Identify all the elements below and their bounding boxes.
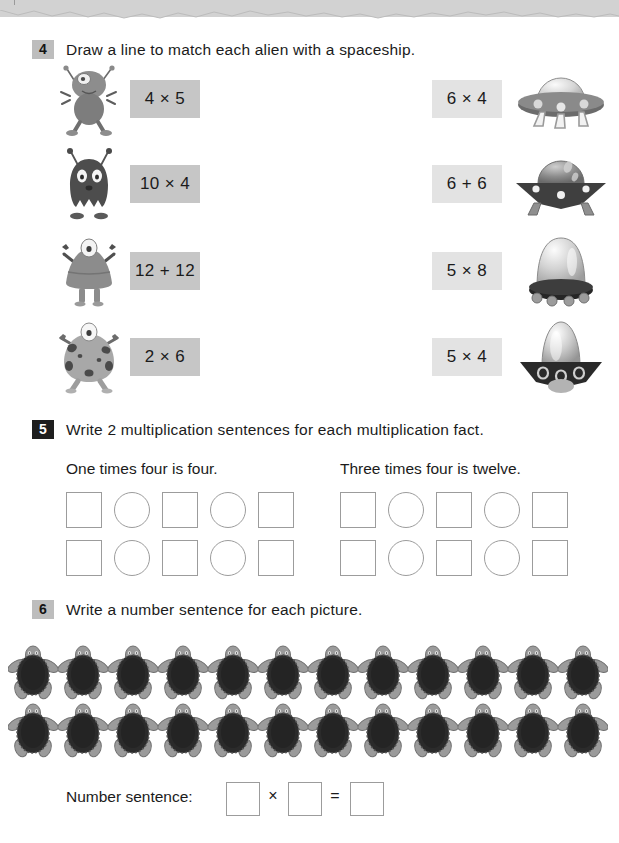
question-5-answer-area: One times four is four. Three times four… bbox=[0, 460, 619, 580]
answer-circle[interactable] bbox=[484, 492, 520, 528]
torn-edge-icon bbox=[0, 10, 619, 24]
answer-box[interactable] bbox=[340, 540, 376, 576]
fact-label-left[interactable]: 2 × 6 bbox=[130, 338, 200, 376]
turtle-icon bbox=[108, 640, 158, 702]
q5-caption-right: Three times four is twelve. bbox=[340, 460, 521, 478]
answer-shape-row bbox=[340, 540, 590, 582]
question-4-badge: 4 bbox=[32, 40, 54, 59]
question-6-instruction: Write a number sentence for each picture… bbox=[66, 601, 363, 619]
answer-circle[interactable] bbox=[210, 540, 246, 576]
match-row: 12 + 12 5 × 8 bbox=[0, 232, 619, 317]
turtle-icon bbox=[258, 698, 308, 760]
turtle-icon bbox=[308, 698, 358, 760]
ufo-tall-dome-icon[interactable] bbox=[512, 232, 610, 312]
answer-box[interactable] bbox=[66, 540, 102, 576]
question-6-badge: 6 bbox=[32, 600, 54, 619]
match-row: 10 × 4 6 + 6 bbox=[0, 145, 619, 230]
number-sentence-box-2[interactable] bbox=[288, 782, 322, 816]
turtle-icon bbox=[358, 640, 408, 702]
multiply-operator: × bbox=[266, 787, 280, 805]
number-sentence-label: Number sentence: bbox=[66, 788, 193, 806]
fact-label-right[interactable]: 5 × 8 bbox=[432, 252, 502, 290]
answer-circle[interactable] bbox=[388, 540, 424, 576]
page-header-band bbox=[0, 0, 619, 24]
fact-label-left[interactable]: 4 × 5 bbox=[130, 80, 200, 118]
q5-caption-left: One times four is four. bbox=[66, 460, 218, 478]
turtle-icon bbox=[408, 698, 458, 760]
turtle-icon bbox=[58, 698, 108, 760]
answer-circle[interactable] bbox=[388, 492, 424, 528]
turtle-icon bbox=[558, 698, 608, 760]
turtle-icon bbox=[158, 698, 208, 760]
turtle-icon bbox=[558, 640, 608, 702]
turtle-icon bbox=[8, 640, 58, 702]
turtle-icon bbox=[358, 698, 408, 760]
answer-box[interactable] bbox=[162, 492, 198, 528]
turtle-icon bbox=[458, 640, 508, 702]
turtle-icon bbox=[258, 640, 308, 702]
number-sentence-box-1[interactable] bbox=[226, 782, 260, 816]
turtle-icon bbox=[58, 640, 108, 702]
fact-label-right[interactable]: 5 × 4 bbox=[432, 338, 502, 376]
question-6-turtle-picture bbox=[0, 640, 619, 765]
alien-ghost-antenna-icon[interactable] bbox=[58, 145, 120, 223]
answer-box[interactable] bbox=[532, 540, 568, 576]
answer-box[interactable] bbox=[340, 492, 376, 528]
ufo-flat-angular-icon[interactable] bbox=[512, 145, 610, 225]
turtle-icon bbox=[408, 640, 458, 702]
alien-spotted-blob-icon[interactable] bbox=[58, 318, 120, 396]
question-5-instruction: Write 2 multiplication sentences for eac… bbox=[66, 421, 484, 439]
number-sentence-box-3[interactable] bbox=[350, 782, 384, 816]
question-4-match-area: 4 × 5 6 × 4 bbox=[0, 60, 619, 400]
turtle-icon bbox=[308, 640, 358, 702]
answer-box[interactable] bbox=[436, 540, 472, 576]
match-row: 2 × 6 5 × 4 bbox=[0, 318, 619, 403]
answer-box[interactable] bbox=[258, 540, 294, 576]
answer-shape-row bbox=[66, 492, 316, 534]
fact-label-right[interactable]: 6 × 4 bbox=[432, 80, 502, 118]
match-row: 4 × 5 6 × 4 bbox=[0, 60, 619, 145]
alien-round-antenna-icon[interactable] bbox=[58, 60, 120, 138]
answer-box[interactable] bbox=[66, 492, 102, 528]
question-4-instruction: Draw a line to match each alien with a s… bbox=[66, 41, 415, 59]
answer-shape-row bbox=[66, 540, 316, 582]
turtle-row bbox=[0, 698, 619, 760]
header-tick-mark bbox=[14, 0, 15, 5]
fact-label-right[interactable]: 6 + 6 bbox=[432, 165, 502, 203]
ufo-rocket-cone-icon[interactable] bbox=[512, 318, 610, 398]
answer-circle[interactable] bbox=[114, 492, 150, 528]
turtle-icon bbox=[508, 640, 558, 702]
answer-box[interactable] bbox=[258, 492, 294, 528]
turtle-icon bbox=[508, 698, 558, 760]
turtle-icon bbox=[158, 640, 208, 702]
fact-label-left[interactable]: 10 × 4 bbox=[130, 165, 200, 203]
answer-shape-row bbox=[340, 492, 590, 534]
answer-circle[interactable] bbox=[484, 540, 520, 576]
ufo-saucer-dome-icon[interactable] bbox=[512, 60, 610, 140]
turtle-row bbox=[0, 640, 619, 702]
answer-box[interactable] bbox=[162, 540, 198, 576]
turtle-icon bbox=[208, 640, 258, 702]
turtle-icon bbox=[108, 698, 158, 760]
answer-box[interactable] bbox=[436, 492, 472, 528]
equals-operator: = bbox=[328, 787, 342, 805]
turtle-icon bbox=[208, 698, 258, 760]
question-5-badge: 5 bbox=[32, 420, 54, 439]
answer-circle[interactable] bbox=[210, 492, 246, 528]
turtle-icon bbox=[8, 698, 58, 760]
fact-label-left[interactable]: 12 + 12 bbox=[130, 252, 200, 290]
answer-circle[interactable] bbox=[114, 540, 150, 576]
answer-box[interactable] bbox=[532, 492, 568, 528]
alien-dome-arms-icon[interactable] bbox=[58, 232, 120, 310]
turtle-icon bbox=[458, 698, 508, 760]
